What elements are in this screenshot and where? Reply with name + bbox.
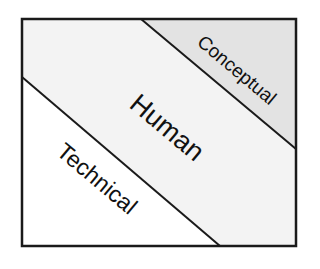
skills-diagram: Conceptual Human Technical (0, 0, 320, 269)
